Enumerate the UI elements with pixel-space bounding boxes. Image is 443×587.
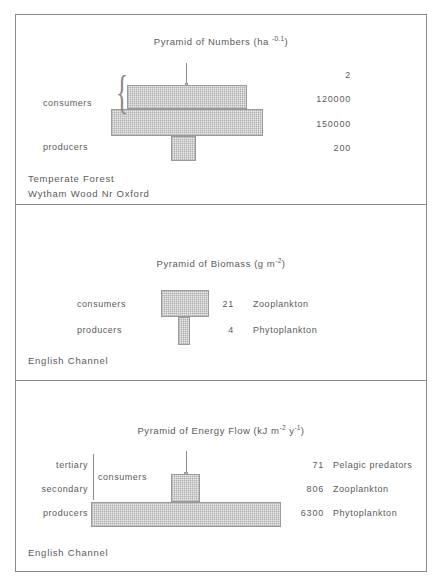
- tier-label-producers-biomass: producers: [77, 325, 122, 335]
- value-biomass-1: 21: [194, 299, 234, 309]
- species-energy-3: Phytoplankton: [333, 508, 397, 518]
- panel-title-energy-paren: ): [301, 425, 305, 436]
- pyramid-bar-numbers-tier3: [111, 109, 263, 136]
- caption-numbers-line2: Wytham Wood Nr Oxford: [28, 188, 150, 199]
- pyramid-bar-energy-producers: [91, 502, 281, 527]
- species-biomass-2: Phytoplankton: [253, 325, 317, 335]
- panel-title-energy: Pyramid of Energy Flow (kJ m-2 y-1): [16, 424, 426, 436]
- value-biomass-2: 4: [194, 325, 234, 335]
- panel-title-biomass: Pyramid of Biomass (g m-2): [16, 257, 426, 269]
- panel-title-numbers-text: Pyramid of Numbers (ha: [154, 36, 272, 47]
- panel-title-biomass-paren: ): [282, 258, 286, 269]
- pyramid-bar-numbers-tier2: [127, 85, 247, 109]
- caption-numbers-line1: Temperate Forest: [28, 173, 114, 184]
- species-energy-2: Zooplankton: [333, 484, 389, 494]
- species-biomass-1: Zooplankton: [253, 299, 309, 309]
- pyramid-spike-energy: [186, 451, 187, 474]
- panel-title-numbers: Pyramid of Numbers (ha -0.1): [16, 35, 426, 47]
- panel-title-biomass-text: Pyramid of Biomass (g m: [157, 258, 276, 269]
- tier-label-tertiary-energy: tertiary: [26, 460, 88, 470]
- pyramid-bar-biomass-producers: [178, 317, 190, 345]
- panel-title-numbers-exponent: -0.1: [272, 35, 284, 42]
- caption-energy-line1: English Channel: [28, 547, 108, 558]
- value-energy-1: 71: [274, 460, 324, 470]
- panel-title-numbers-paren: ): [284, 36, 288, 47]
- panel-title-energy-text: Pyramid of Energy Flow (kJ m: [137, 425, 279, 436]
- species-energy-1: Pelagic predators: [333, 460, 412, 470]
- tier-label-consumers-biomass: consumers: [77, 299, 126, 309]
- value-numbers-1: 2: [271, 70, 351, 80]
- figure-frame: Pyramid of Numbers (ha -0.1) { consumers…: [15, 14, 427, 572]
- tier-label-consumers-energy: consumers: [98, 472, 147, 482]
- pyramid-spike-numbers: [186, 63, 187, 85]
- consumers-bracket-energy: [93, 454, 94, 500]
- tier-label-secondary-energy: secondary: [26, 484, 88, 494]
- value-numbers-3: 150000: [271, 119, 351, 129]
- pyramid-bar-energy-secondary: [171, 474, 200, 502]
- value-energy-2: 806: [274, 484, 324, 494]
- caption-biomass-line1: English Channel: [28, 355, 108, 366]
- consumers-brace-numbers: {: [116, 70, 128, 116]
- value-energy-3: 6300: [274, 508, 324, 518]
- tier-label-producers-energy: producers: [26, 508, 88, 518]
- pyramid-bar-numbers-base: [171, 136, 196, 161]
- value-numbers-4: 200: [271, 143, 351, 153]
- panel-pyramid-of-numbers: Pyramid of Numbers (ha -0.1) { consumers…: [16, 15, 426, 204]
- tier-label-consumers-numbers: consumers: [43, 98, 92, 108]
- tier-label-producers-numbers: producers: [43, 142, 88, 152]
- value-numbers-2: 120000: [271, 94, 351, 104]
- panel-pyramid-of-biomass: Pyramid of Biomass (g m-2) consumers pro…: [16, 204, 426, 380]
- panel-pyramid-of-energy-flow: Pyramid of Energy Flow (kJ m-2 y-1) tert…: [16, 380, 426, 573]
